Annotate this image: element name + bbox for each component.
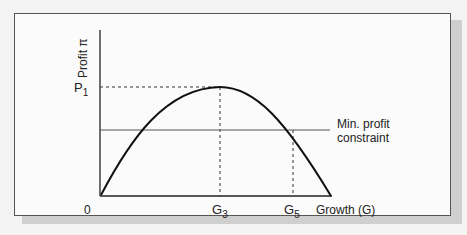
x-axis-label: Growth (G) xyxy=(316,203,375,217)
p1-label: P1 xyxy=(74,80,89,98)
constraint-label-line1: Min. profit xyxy=(337,117,390,131)
g3-label: G3 xyxy=(212,202,228,220)
y-axis-label: Profit π xyxy=(76,38,90,78)
constraint-label-line2: constraint xyxy=(337,131,390,145)
g5-label: G5 xyxy=(284,202,300,220)
origin-label: 0 xyxy=(84,203,91,217)
profit-growth-chart: Profit π P1 0 G3 G5 Growth (G) Min. prof… xyxy=(0,0,467,235)
profit-curve xyxy=(101,87,331,196)
